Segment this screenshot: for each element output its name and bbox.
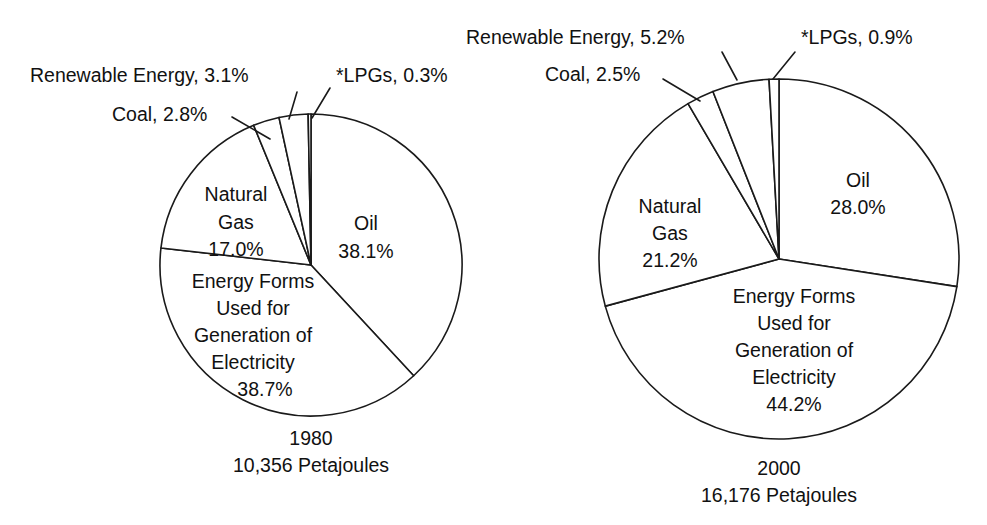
slice-label-oil-2000: Oil	[846, 169, 870, 191]
caption-year-2000: 2000	[757, 457, 801, 479]
slice-label-natural-gas-2000-line1: Natural	[639, 195, 702, 217]
callout-renewable-1980: Renewable Energy, 3.1%	[30, 64, 249, 86]
caption-year-1980: 1980	[289, 427, 333, 449]
slice-value-oil-1980: 38.1%	[338, 240, 393, 262]
slice-value-electricity-2000: 44.2%	[766, 393, 821, 415]
slice-label-electricity-1980-line4: Electricity	[211, 351, 295, 373]
leader-line-lpgs-1980	[312, 88, 330, 118]
slice-label-electricity-2000-line2: Used for	[757, 312, 831, 334]
caption-total-2000: 16,176 Petajoules	[701, 484, 857, 506]
slice-value-oil-2000: 28.0%	[830, 196, 885, 218]
callout-lpgs-1980: *LPGs, 0.3%	[336, 64, 448, 86]
slice-label-natural-gas-1980-line1: Natural	[205, 183, 268, 205]
slice-label-electricity-1980-line3: Generation of	[194, 324, 313, 346]
pie-chart-2000: Renewable Energy, 5.2% Coal, 2.5% *LPGs,…	[466, 26, 959, 506]
slice-value-natural-gas-2000: 21.2%	[642, 249, 697, 271]
leader-line-coal-2000	[663, 79, 700, 101]
slice-label-natural-gas-2000-line2: Gas	[652, 222, 688, 244]
charts-svg: Renewable Energy, 3.1% Coal, 2.8% *LPGs,…	[0, 0, 987, 525]
slice-label-electricity-1980-line2: Used for	[216, 297, 290, 319]
leader-line-renewable-2000	[722, 52, 737, 80]
pie-chart-figure: Renewable Energy, 3.1% Coal, 2.8% *LPGs,…	[0, 0, 987, 525]
slice-label-oil-1980: Oil	[354, 212, 378, 234]
slice-value-natural-gas-1980: 17.0%	[208, 238, 263, 260]
callout-renewable-2000: Renewable Energy, 5.2%	[466, 26, 685, 48]
slice-value-electricity-1980: 38.7%	[237, 378, 292, 400]
slice-label-natural-gas-1980-line2: Gas	[218, 211, 254, 233]
slice-label-electricity-2000-line4: Electricity	[752, 366, 836, 388]
slice-label-electricity-2000-line3: Generation of	[735, 339, 854, 361]
slice-label-electricity-2000-line1: Energy Forms	[733, 285, 856, 307]
pie-chart-1980: Renewable Energy, 3.1% Coal, 2.8% *LPGs,…	[30, 64, 462, 476]
slice-label-electricity-1980-line1: Energy Forms	[192, 270, 315, 292]
pie-slices-1980	[160, 114, 462, 416]
callout-coal-2000: Coal, 2.5%	[545, 63, 640, 85]
callout-coal-1980: Coal, 2.8%	[112, 103, 207, 125]
callout-lpgs-2000: *LPGs, 0.9%	[801, 26, 913, 48]
caption-total-1980: 10,356 Petajoules	[233, 454, 389, 476]
leader-line-lpgs-2000	[773, 52, 795, 79]
